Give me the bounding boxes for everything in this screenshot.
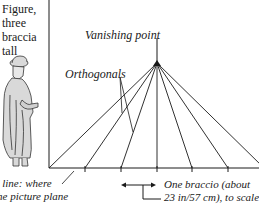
- ground-line-label-line: the picture plane: [0, 190, 68, 203]
- figure-label-line: tall: [2, 44, 37, 58]
- ground-line-label-line: d line: where: [0, 177, 68, 190]
- ground-line-label: d line: where the picture plane: [0, 177, 68, 203]
- figure-face: [13, 66, 24, 79]
- figure-illustration: [3, 56, 38, 166]
- orthogonals-leaders: [120, 77, 133, 132]
- figure-label: Figure, three braccia tall: [2, 2, 37, 58]
- orthogonal-line: [121, 63, 157, 168]
- orthogonals-leader: [120, 77, 133, 132]
- figure-label-line: braccia: [2, 30, 37, 44]
- braccio-arrowhead-right: [151, 183, 156, 188]
- orthogonals-label: Orthogonals: [65, 67, 126, 82]
- figure-label-line: Figure,: [2, 2, 37, 16]
- figure-feet: [13, 158, 28, 166]
- orthogonal-line: [157, 63, 259, 168]
- braccio-label: One braccio (about 23 in/57 cm), to scal…: [164, 178, 259, 204]
- figure-label-line: three: [2, 16, 37, 30]
- braccio-label-line: 23 in/57 cm), to scale: [164, 191, 259, 204]
- vanishing-point-label: Vanishing point: [85, 28, 160, 43]
- orthogonal-line: [157, 63, 228, 168]
- braccio-leader: [143, 185, 161, 199]
- braccio-label-line: One braccio (about: [164, 178, 259, 191]
- orthogonal-line: [157, 63, 192, 168]
- braccio-arrowhead-left: [121, 183, 126, 188]
- ground-ticks: [85, 166, 228, 172]
- figure-robe: [3, 78, 33, 158]
- braccio-arrow: [121, 183, 161, 200]
- perspective-diagram: Figure, three braccia tall Vanishing poi…: [0, 0, 259, 204]
